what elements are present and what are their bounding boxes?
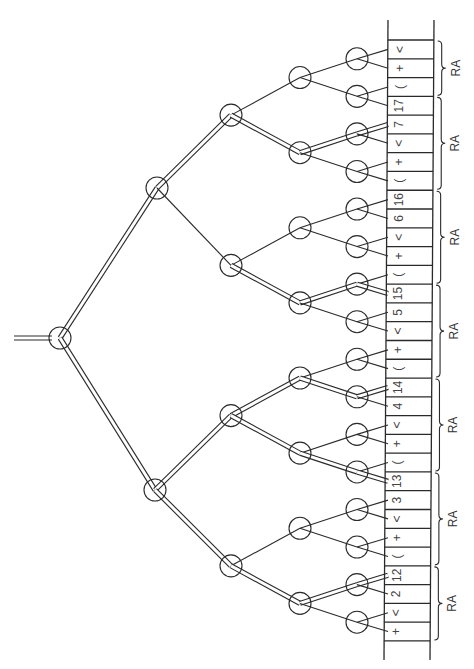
tree-edge xyxy=(300,359,357,378)
highlighted-edge xyxy=(300,585,357,604)
tree-edge xyxy=(357,350,388,359)
cell-symbol: < xyxy=(390,421,404,428)
cell-symbol: < xyxy=(391,328,405,335)
ra-brace xyxy=(436,285,444,377)
tree-edge xyxy=(300,78,357,97)
cell-symbol: 15 xyxy=(391,287,405,301)
ra-brace xyxy=(435,473,443,565)
tree-edge xyxy=(357,237,388,246)
ra-brace xyxy=(437,97,445,189)
tree-edge xyxy=(300,59,357,78)
cell-symbol: + xyxy=(391,346,405,353)
cell-symbol: + xyxy=(389,628,403,635)
cell-symbol: 12 xyxy=(390,568,404,582)
tree-edge xyxy=(357,538,388,547)
ra-brace xyxy=(437,191,445,283)
cell-symbol: ( xyxy=(390,461,404,465)
tree-edge xyxy=(357,87,388,96)
tree-edge xyxy=(357,247,388,256)
tree-edge xyxy=(300,528,357,547)
highlighted-edge xyxy=(357,387,388,396)
tree-edge xyxy=(357,200,388,209)
tree-edge xyxy=(357,162,388,171)
tree-edge xyxy=(300,303,357,322)
cell-symbol: < xyxy=(389,609,403,616)
cell-symbol: ( xyxy=(391,273,405,277)
highlighted-edge xyxy=(231,378,300,416)
highlighted-edge xyxy=(155,416,231,490)
tree-edge xyxy=(357,500,388,509)
tree-edge xyxy=(357,171,388,180)
tree-edge xyxy=(300,510,357,529)
highlighted-edge xyxy=(300,453,357,472)
tree-edge xyxy=(357,49,388,58)
tree-edge xyxy=(357,322,388,331)
cell-symbol: ( xyxy=(390,554,404,558)
cell-symbol: < xyxy=(392,234,406,241)
tree-edge xyxy=(157,188,231,265)
ra-label: RA xyxy=(445,595,459,612)
cell-symbol: + xyxy=(390,440,404,447)
cell-symbol: + xyxy=(390,534,404,541)
highlighted-edge xyxy=(357,284,388,293)
cell-symbol: + xyxy=(392,159,406,166)
ra-braces: RARARARARARARA xyxy=(434,41,462,640)
tree-edge xyxy=(300,153,357,172)
tree-edge xyxy=(357,134,388,143)
tree-edge xyxy=(357,585,388,594)
cell-symbol: 4 xyxy=(391,403,405,410)
highlighted-edge xyxy=(231,115,300,153)
cell-symbol: 17 xyxy=(392,99,406,113)
highlighted-edge xyxy=(357,575,388,584)
highlighted-edge xyxy=(155,490,231,566)
cell-symbol: ( xyxy=(392,179,406,183)
highlighted-edge xyxy=(300,284,357,303)
tree-edge xyxy=(357,425,388,434)
highlighted-edge xyxy=(60,188,157,338)
highlighted-edge xyxy=(300,378,357,397)
tree-edge xyxy=(357,209,388,218)
tree-edge xyxy=(357,434,388,443)
cell-symbol: 16 xyxy=(392,193,406,207)
tree-edge xyxy=(300,228,357,247)
ra-label: RA xyxy=(446,511,460,528)
tree-edge xyxy=(357,59,388,68)
cell-symbol: + xyxy=(392,252,406,259)
ra-label: RA xyxy=(446,417,460,434)
highlighted-edge xyxy=(60,338,155,490)
tree-edge xyxy=(357,613,388,622)
tree-edge xyxy=(300,209,357,228)
highlighted-edge xyxy=(157,115,231,188)
ra-label: RA xyxy=(449,60,463,77)
cell-symbol: 2 xyxy=(389,590,403,597)
highlighted-edge xyxy=(231,265,300,303)
ra-brace xyxy=(435,379,443,471)
tree-edge xyxy=(300,434,357,453)
symbol-strip: <+(177<+(166<+(155<+(144<+(133<+(122<+ xyxy=(384,20,434,660)
cell-symbol: < xyxy=(390,515,404,522)
tree-edge xyxy=(231,78,300,116)
tree-edge xyxy=(357,547,388,556)
cell-symbol: 5 xyxy=(391,309,405,316)
tree-edge xyxy=(357,510,388,519)
cell-symbol: 14 xyxy=(391,380,405,394)
highlighted-edge xyxy=(357,472,388,481)
cell-symbol: < xyxy=(392,140,406,147)
highlighted-edge xyxy=(357,125,388,134)
cell-symbol: ( xyxy=(393,85,407,89)
cell-symbol: 6 xyxy=(392,215,406,222)
tree-edge xyxy=(357,275,388,284)
tree-edge xyxy=(357,463,388,472)
highlighted-edge xyxy=(231,416,300,454)
ra-label: RA xyxy=(448,135,462,152)
tree-edge xyxy=(231,528,300,566)
ra-label: RA xyxy=(448,229,462,246)
parse-tree-diagram: <+(177<+(166<+(155<+(144<+(133<+(122<+ R… xyxy=(0,0,474,669)
cell-symbol: 3 xyxy=(390,496,404,503)
cell-symbol: 13 xyxy=(390,474,404,488)
ra-brace xyxy=(438,41,446,95)
tree-edge xyxy=(357,359,388,368)
tree-edge xyxy=(357,622,388,631)
cell-symbol: 7 xyxy=(392,121,406,128)
tree-edge xyxy=(357,397,388,406)
